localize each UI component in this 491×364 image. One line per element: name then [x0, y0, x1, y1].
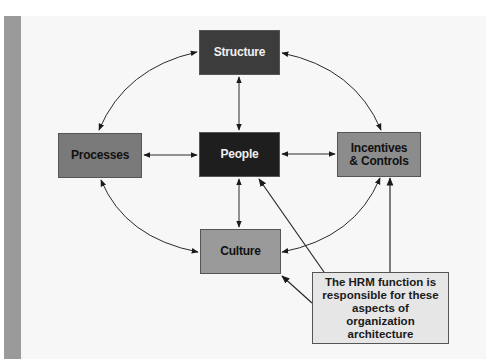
node-culture: Culture [200, 229, 281, 274]
node-structure: Structure [199, 30, 280, 75]
node-incentives-controls: Incentives & Controls [337, 132, 421, 177]
node-incentives-label: Incentives & Controls [348, 142, 410, 168]
edge-incentives-culture [282, 178, 380, 252]
hrm-note-box: The HRM function is responsible for thes… [312, 272, 449, 344]
node-people: People [199, 132, 280, 177]
edge-structure-processes [99, 52, 197, 130]
edge-processes-culture [101, 180, 198, 252]
node-people-label: People [220, 148, 258, 161]
node-structure-label: Structure [214, 46, 266, 59]
node-processes-label: Processes [71, 149, 129, 162]
hrm-note-text: The HRM function is responsible for thes… [319, 276, 442, 341]
edge-note-culture [282, 276, 312, 303]
edge-structure-incentives [282, 53, 381, 130]
node-processes: Processes [58, 133, 142, 178]
node-culture-label: Culture [220, 245, 261, 258]
